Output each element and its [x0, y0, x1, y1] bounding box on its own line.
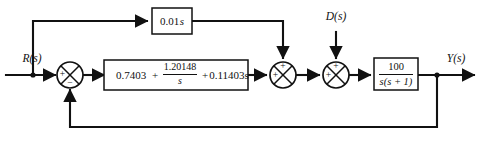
wire-feedforward-to-summer2	[192, 21, 283, 58]
controller-proportional-gain: 0.7403	[116, 69, 147, 81]
summer3-top-sign: +	[333, 61, 338, 71]
output-signal-label: Y(s)	[447, 52, 466, 65]
block-diagram-canvas: + − + + + + 0.01s 0.7	[0, 0, 482, 143]
control-system-block-diagram: + − + + + + 0.01s 0.7	[0, 0, 482, 143]
controller-plus-sign-1: +	[152, 69, 158, 81]
plant-transfer-function-block: 100 s(s + 1)	[374, 58, 418, 90]
disturbance-signal-label: D(s)	[325, 10, 347, 23]
controller-integral-numerator: 1.20148	[164, 61, 197, 72]
summer3-left-sign: +	[326, 70, 331, 80]
controller-derivative-term: 0.11403s	[209, 69, 249, 81]
summer1-bottom-sign: −	[67, 78, 72, 88]
summer2-top-sign: +	[280, 61, 285, 71]
summer2-left-sign: +	[273, 70, 278, 80]
plant-denominator: s(s + 1)	[380, 76, 413, 88]
feedforward-summing-junction: + +	[270, 61, 296, 88]
input-signal-label: R(s)	[21, 52, 41, 65]
derivative-feedforward-block: 0.01s	[152, 8, 192, 34]
controller-integral-denominator: s	[178, 75, 182, 86]
controller-plus-sign-2: +	[202, 69, 208, 81]
feedforward-block-label: 0.01s	[160, 15, 184, 27]
takeoff-node-input	[30, 72, 35, 77]
pid-controller-block: 0.7403 + 1.20148 s + 0.11403s	[104, 60, 249, 90]
error-summing-junction: + −	[57, 62, 83, 88]
disturbance-summing-junction: + +	[323, 61, 349, 88]
summer1-left-sign: +	[60, 69, 65, 79]
takeoff-node-output	[434, 72, 439, 77]
plant-numerator: 100	[388, 61, 404, 72]
